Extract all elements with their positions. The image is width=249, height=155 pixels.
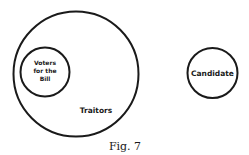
voters-label-line-3: Bill	[40, 75, 51, 82]
traitors-circle	[14, 12, 139, 137]
euler-diagram: Voters for the Bill Traitors Candidate F…	[0, 0, 249, 155]
traitors-label: Traitors	[80, 106, 113, 115]
figure-caption: Fig. 7	[109, 140, 141, 153]
voters-label-line-1: Voters	[34, 59, 56, 66]
voters-label-line-2: for the	[34, 67, 57, 74]
candidate-label: Candidate	[191, 69, 234, 78]
